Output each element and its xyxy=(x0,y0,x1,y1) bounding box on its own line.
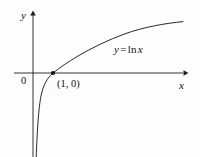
curve-equation-equals: = xyxy=(120,43,126,55)
y-axis-arrowhead-icon xyxy=(30,11,36,16)
curve-equation-function: ln xyxy=(128,43,137,55)
x-axis-arrowhead-icon xyxy=(184,70,189,76)
plot-area xyxy=(0,0,200,157)
x-axis-label: x xyxy=(179,80,184,91)
curve-equation-y: y xyxy=(114,43,119,55)
origin-label: 0 xyxy=(21,76,26,87)
curve-equation-label: y = ln x xyxy=(114,44,143,55)
figure-canvas: y x 0 (1, 0) y = ln x xyxy=(0,0,200,157)
curve-equation-argument: x xyxy=(138,43,143,55)
point-marker-1-0 xyxy=(51,71,55,75)
y-axis-label: y xyxy=(21,10,26,21)
point-coordinate-label: (1, 0) xyxy=(57,79,80,90)
